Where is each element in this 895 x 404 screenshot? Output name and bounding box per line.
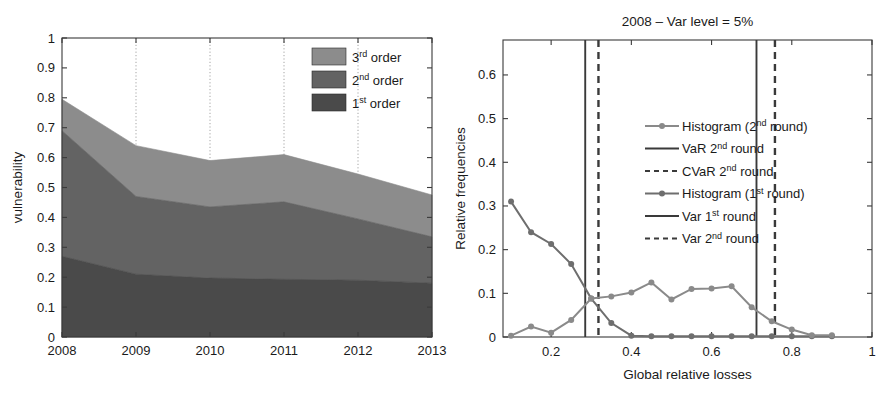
data-point-histogram-2nd-round <box>829 332 835 338</box>
legend-label-5: Var 2nd round <box>682 231 759 247</box>
x-tick-label: 2009 <box>122 343 151 358</box>
legend-label-4: Var 1st round <box>682 208 756 224</box>
legend-swatch-3rd-order <box>312 48 346 65</box>
y-tick-label: 1 <box>48 31 55 46</box>
data-point-histogram-2nd-round <box>709 286 715 292</box>
legend-label-3rd-order: 3rd order <box>352 49 402 65</box>
x-tick-label: 0.6 <box>703 344 721 359</box>
data-point-histogram-1st-round <box>668 333 674 339</box>
vulnerability-area-chart: 00.10.20.30.40.50.60.70.80.9120082009201… <box>0 0 450 404</box>
data-point-histogram-2nd-round <box>648 279 654 285</box>
left-chart-panel: 00.10.20.30.40.50.60.70.80.9120082009201… <box>0 0 450 404</box>
data-point-histogram-2nd-round <box>809 332 815 338</box>
series-line-histogram-2nd-round <box>511 282 832 335</box>
legend-label-3: Histogram (1st round) <box>682 186 805 202</box>
y-tick-label: 0.6 <box>478 67 496 82</box>
data-point-histogram-1st-round <box>628 333 634 339</box>
y-tick-label: 0.9 <box>37 60 55 75</box>
y-tick-label: 0.8 <box>37 90 55 105</box>
x-tick-label: 2011 <box>270 343 298 358</box>
y-tick-label: 0.3 <box>478 198 496 213</box>
data-point-histogram-2nd-round <box>628 289 634 295</box>
data-point-histogram-1st-round <box>789 333 795 339</box>
y-tick-label: 0.5 <box>478 111 496 126</box>
y-tick-label: 0.3 <box>37 240 55 255</box>
data-point-histogram-1st-round <box>648 333 654 339</box>
data-point-histogram-2nd-round <box>588 296 594 302</box>
x-tick-label: 2012 <box>344 343 373 358</box>
data-point-histogram-2nd-round <box>668 296 674 302</box>
right-plot-group: 2008 – Var level = 5%00.10.20.30.40.50.6… <box>453 14 876 382</box>
y-tick-label: 0 <box>489 330 496 345</box>
x-tick-label: 2010 <box>196 343 225 358</box>
data-point-histogram-1st-round <box>568 261 574 267</box>
data-point-histogram-1st-round <box>749 333 755 339</box>
data-point-histogram-2nd-round <box>729 283 735 289</box>
legend-marker-point <box>659 191 665 197</box>
y-axis-title: vulnerability <box>10 152 25 224</box>
data-point-histogram-1st-round <box>528 229 534 235</box>
y-tick-label: 0.4 <box>478 155 496 170</box>
y-tick-label: 0.2 <box>478 242 496 257</box>
legend-swatch-1st-order <box>312 94 346 111</box>
data-point-histogram-2nd-round <box>749 304 755 310</box>
data-point-histogram-2nd-round <box>548 330 554 336</box>
relative-frequencies-chart: 2008 – Var level = 5%00.10.20.30.40.50.6… <box>445 0 895 404</box>
data-point-histogram-1st-round <box>548 241 554 247</box>
figure-root: 00.10.20.30.40.50.60.70.80.9120082009201… <box>0 0 895 404</box>
data-point-histogram-1st-round <box>689 333 695 339</box>
x-tick-label: 0.2 <box>542 344 560 359</box>
data-point-histogram-2nd-round <box>568 317 574 323</box>
legend-label-2: CVaR 2nd round <box>682 163 773 179</box>
data-point-histogram-2nd-round <box>528 324 534 330</box>
data-point-histogram-2nd-round <box>689 286 695 292</box>
left-plot-group: 00.10.20.30.40.50.60.70.80.9120082009201… <box>10 31 446 359</box>
x-tick-label: 1 <box>868 344 875 359</box>
chart-title: 2008 – Var level = 5% <box>622 14 753 29</box>
data-point-histogram-2nd-round <box>789 327 795 333</box>
data-point-histogram-1st-round <box>769 333 775 339</box>
series-line-histogram-1st-round <box>511 202 832 337</box>
legend-label-1: VaR 2nd round <box>682 141 764 157</box>
y-tick-label: 0.4 <box>37 210 55 225</box>
legend-label-0: Histogram (2nd round) <box>682 118 808 134</box>
x-tick-label: 0.4 <box>622 344 640 359</box>
y-tick-label: 0.5 <box>37 180 55 195</box>
x-tick-label: 0.8 <box>783 344 801 359</box>
y-tick-label: 0.7 <box>37 120 55 135</box>
legend-swatch-2nd-order <box>312 71 346 88</box>
x-tick-label: 2008 <box>48 343 77 358</box>
right-chart-panel: 2008 – Var level = 5%00.10.20.30.40.50.6… <box>445 0 895 404</box>
legend-label-1st-order: 1st order <box>352 95 401 111</box>
y-tick-label: 0.2 <box>37 270 55 285</box>
y-tick-label: 0.6 <box>37 150 55 165</box>
data-point-histogram-2nd-round <box>608 293 614 299</box>
data-point-histogram-1st-round <box>729 333 735 339</box>
y-tick-label: 0.1 <box>478 286 496 301</box>
data-point-histogram-1st-round <box>709 333 715 339</box>
x-axis-title: Global relative losses <box>623 367 752 382</box>
legend-label-2nd-order: 2nd order <box>352 72 404 88</box>
data-point-histogram-2nd-round <box>508 333 514 339</box>
legend-marker-point <box>659 123 665 129</box>
data-point-histogram-1st-round <box>508 199 514 205</box>
x-tick-label: 2013 <box>418 343 447 358</box>
data-point-histogram-1st-round <box>608 320 614 326</box>
data-point-histogram-2nd-round <box>769 318 775 324</box>
y-axis-title: Relative frequencies <box>453 127 468 250</box>
y-tick-label: 0.1 <box>37 300 55 315</box>
